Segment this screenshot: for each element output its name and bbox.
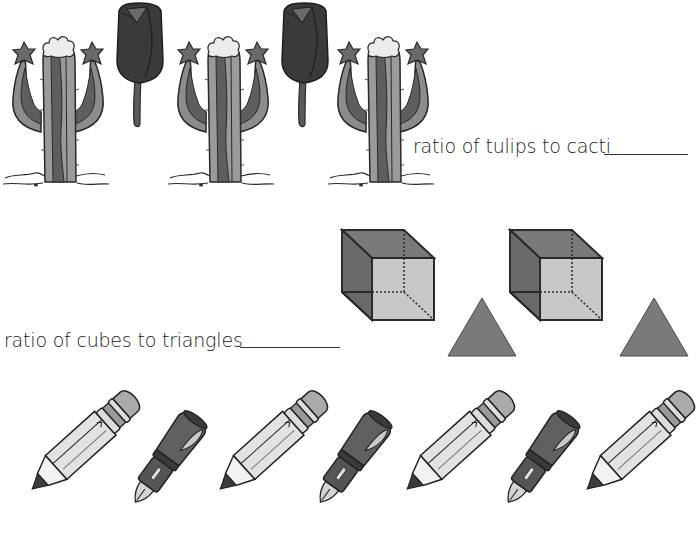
fountain-pen-icon (126, 410, 206, 510)
pencil-icon (577, 390, 697, 508)
question-tulips-cacti-prompt: ratio of tulips to cacti (413, 137, 611, 156)
question-cubes-triangles-prompt: ratio of cubes to triangles (4, 331, 243, 350)
cactus-icon (328, 0, 436, 190)
cactus-icon (3, 0, 111, 190)
answer-blank-cubes-triangles[interactable] (240, 347, 340, 348)
cubes-triangles-row: ratio of cubes to triangles (0, 200, 693, 370)
pencils-pens-row (0, 380, 693, 537)
answer-blank-tulips-cacti[interactable] (604, 154, 688, 155)
tulip-icon (278, 1, 334, 131)
tulip-icon (113, 1, 169, 131)
cube-icon (340, 228, 436, 322)
pencil-icon (22, 390, 142, 508)
fountain-pen-icon (311, 410, 391, 510)
cactus-icon (168, 0, 276, 190)
fountain-pen-icon (499, 410, 579, 510)
triangle-icon (620, 297, 690, 358)
cube-icon (508, 228, 604, 322)
tulips-cacti-row: ratio of tulips to cacti (0, 0, 693, 200)
